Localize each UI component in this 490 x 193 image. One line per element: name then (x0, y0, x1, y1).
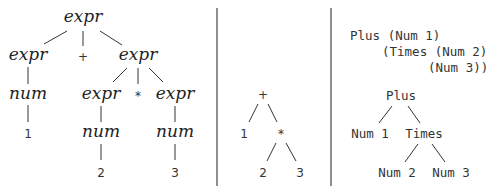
edge (405, 144, 418, 162)
edge (286, 143, 296, 161)
ast-leaf-2: 2 (259, 166, 267, 180)
code-line-2: (Times (Num 2) (382, 44, 487, 59)
haskell-ast-panel: Plus (Num 1) (Times (Num 2) (Num 3)) Plu… (350, 28, 488, 180)
ast-node-plus: + (258, 88, 268, 102)
code-line-1: Plus (Num 1) (350, 28, 440, 43)
edge (113, 68, 127, 82)
node-num-2: num (82, 121, 120, 141)
node-times: * (135, 89, 141, 103)
edge (100, 31, 122, 45)
node-num-left: num (9, 83, 47, 103)
hs-node-num-1: Num 1 (351, 126, 389, 141)
node-num-3: num (156, 121, 194, 141)
leaf-2: 2 (97, 166, 105, 180)
edge (268, 104, 277, 122)
node-expr-3: expr (156, 83, 196, 103)
leaf-1: 1 (24, 127, 32, 141)
edge (249, 104, 258, 122)
hs-node-num-3: Num 3 (432, 165, 470, 180)
parse-tree-panel: expr expr + expr num 1 expr * expr num n… (9, 6, 196, 180)
hs-node-num-2: Num 2 (378, 165, 416, 180)
node-expr-right: expr (119, 44, 159, 64)
edge (44, 31, 67, 44)
leaf-3: 3 (171, 166, 179, 180)
edge (379, 106, 392, 123)
ast-leaf-3: 3 (296, 166, 304, 180)
diagram-canvas: expr expr + expr num 1 expr * expr num n… (0, 0, 490, 193)
edge (432, 144, 445, 162)
syntax-tree-panel: + 1 * 2 3 (240, 88, 304, 180)
node-plus: + (78, 50, 88, 64)
node-expr-left: expr (9, 44, 49, 64)
node-root-expr: expr (64, 6, 104, 26)
ast-node-times: * (278, 127, 284, 141)
edge (149, 68, 163, 82)
edge (267, 143, 276, 161)
hs-node-plus: Plus (386, 88, 416, 103)
code-line-3: (Num 3)) (428, 60, 488, 75)
edge (408, 106, 420, 123)
node-expr-2: expr (82, 83, 122, 103)
ast-leaf-1: 1 (240, 127, 248, 141)
hs-node-times: Times (405, 126, 443, 141)
